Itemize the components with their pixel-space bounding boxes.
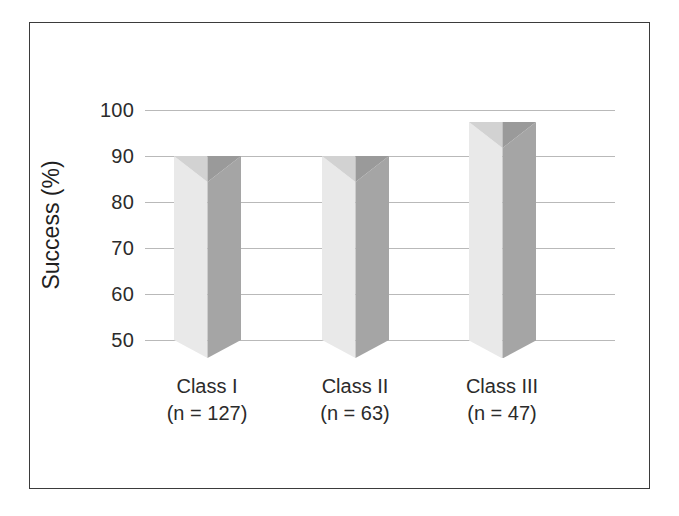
gridline-100 xyxy=(145,110,615,111)
y-tick-label-100: 100 xyxy=(100,99,134,122)
bar-2 xyxy=(322,156,389,340)
bar-shape-2 xyxy=(322,156,389,358)
category-name-2: Class II xyxy=(322,375,389,397)
y-axis-title: Success (%) xyxy=(34,110,68,340)
bar-shape-1 xyxy=(174,156,241,358)
category-count-3: (n = 47) xyxy=(412,400,592,427)
bar-right-face-2 xyxy=(355,156,389,358)
y-tick-label-70: 70 xyxy=(111,237,134,260)
bar-left-face-3 xyxy=(469,122,503,359)
y-tick-label-50: 50 xyxy=(111,329,134,352)
bar-3 xyxy=(469,122,536,341)
y-tick-label-60: 60 xyxy=(111,283,134,306)
bar-right-face-1 xyxy=(207,156,241,358)
category-label-3: Class III(n = 47) xyxy=(412,373,592,427)
bar-1 xyxy=(174,156,241,340)
bar-right-face-3 xyxy=(502,122,536,359)
bar-shape-3 xyxy=(469,122,536,359)
figure-root: Success (%) 1009080706050 Class I(n = 12… xyxy=(0,0,679,516)
y-tick-label-90: 90 xyxy=(111,145,134,168)
bar-left-face-2 xyxy=(322,156,356,358)
bar-left-face-1 xyxy=(174,156,208,358)
category-name-3: Class III xyxy=(466,375,538,397)
category-name-1: Class I xyxy=(176,375,237,397)
y-tick-label-80: 80 xyxy=(111,191,134,214)
